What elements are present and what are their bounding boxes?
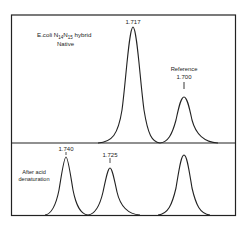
density-gradient-chart: E.coli N14N15 hybrid Native 1.717 Refere… — [0, 0, 244, 227]
peak-1700-curve — [160, 97, 218, 143]
reference-label: Reference — [171, 66, 198, 72]
peak-label-1740: 1.740 — [58, 146, 74, 152]
after-acid-label: After acid — [22, 169, 46, 175]
peak-1740-curve — [45, 157, 88, 215]
reference-bottom-curve — [158, 155, 210, 215]
peak-label-1725: 1.725 — [102, 152, 118, 158]
reference-value: 1.700 — [176, 74, 192, 80]
native-label: Native — [57, 41, 75, 47]
chart-frame — [12, 15, 236, 216]
peak-1717-curve — [98, 27, 160, 143]
sample-title: E.coli N14N15 hybrid — [37, 31, 92, 40]
denaturation-label: denaturation — [18, 176, 49, 182]
peak-label-1717: 1.717 — [125, 19, 141, 25]
peak-1725-curve — [88, 168, 140, 215]
